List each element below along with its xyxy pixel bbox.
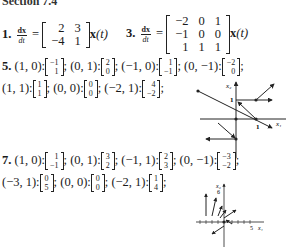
problem-5-line-1: 5. (1, 0):−11; (0, 1):20; (−1, 0):1−1; (…: [2, 58, 244, 76]
vector: 1−1: [45, 152, 64, 170]
direction-field-graph-7: x₂ 6 5 x₁: [192, 180, 272, 247]
problem-number: 3.: [126, 26, 135, 40]
svg-text:x₁: x₁: [275, 120, 282, 128]
problem-5-line-2: (1, 1):11; (0, 0):00; (−2, 1):4−2;: [2, 80, 164, 98]
svg-text:1: 1: [256, 123, 260, 131]
direction-field-graph-5: x₂ x₁ 1 1: [190, 78, 290, 158]
section-header: Section 7.4: [2, 0, 57, 9]
vector: 32: [101, 152, 115, 170]
vector: 20: [101, 58, 115, 76]
problem-number: 1.: [2, 27, 11, 41]
vector: 14: [149, 174, 163, 192]
svg-text:5: 5: [250, 225, 253, 231]
problem-3: 3. dxdt = −201 −100 111 x(t): [126, 15, 248, 54]
vector: 00: [84, 80, 98, 98]
vector: 05: [40, 174, 54, 192]
vector: 11: [33, 80, 47, 98]
coefficient-matrix: −201 −100 111: [166, 15, 230, 54]
vector: 4−2: [142, 80, 161, 98]
vector: 23: [159, 152, 173, 170]
vector: −20: [222, 58, 241, 76]
derivative-fraction: dxdt: [141, 25, 151, 44]
problem-7-line-2: (−3, 1):05; (0, 0):00; (−2, 1):14;: [2, 174, 166, 192]
vector: 00: [91, 174, 105, 192]
svg-text:x₁: x₁: [257, 225, 263, 231]
coefficient-matrix: 23 −41: [42, 22, 90, 48]
problem-7-line-1: 7. (1, 0):1−1; (0, 1):32; (−1, 1):23; (0…: [2, 152, 239, 170]
vector: −3−2: [217, 152, 236, 170]
derivative-fraction: dxdt: [17, 26, 27, 45]
problem-number: 5.: [2, 59, 11, 73]
vector: −11: [45, 58, 64, 76]
vector: 1−1: [159, 58, 178, 76]
problem-1: 1. dxdt = 23 −41 x(t): [2, 22, 108, 48]
svg-text:x₂: x₂: [225, 82, 232, 90]
equals-sign: =: [32, 27, 39, 41]
problem-number: 7.: [2, 153, 11, 167]
svg-text:1: 1: [230, 96, 234, 104]
svg-text:6: 6: [217, 189, 220, 195]
equals-sign: =: [156, 26, 163, 40]
